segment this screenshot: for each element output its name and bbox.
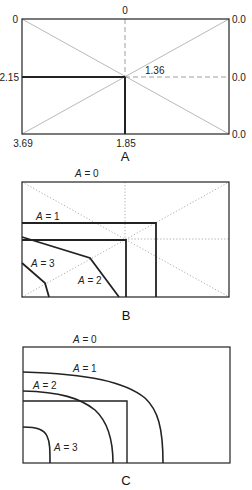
label-a3: A = 3 <box>53 442 78 453</box>
panel-a-caption: A <box>121 149 130 164</box>
figure: 0 0 0.0 2.15 0.0 1.36 3.69 1.85 0.0 A A … <box>0 0 252 490</box>
panel-b: A = 0 A = 1 A = 2 A = 3 B <box>22 168 229 323</box>
label-bottom-right: 0.0 <box>232 129 246 140</box>
label-top-right: 0.0 <box>232 14 246 25</box>
panel-a: 0 0 0.0 2.15 0.0 1.36 3.69 1.85 0.0 A <box>0 5 246 164</box>
label-bottom-center: 1.85 <box>116 138 136 149</box>
label-a0: A = 0 <box>74 168 99 179</box>
label-bottom-left: 3.69 <box>13 138 33 149</box>
label-a1: A = 1 <box>35 211 60 222</box>
label-a3: A = 3 <box>30 258 55 269</box>
label-mid-left: 2.15 <box>0 72 19 83</box>
contour-a3 <box>23 427 50 463</box>
label-center: 1.36 <box>145 65 165 76</box>
label-a2: A = 2 <box>32 380 57 391</box>
contour-a2-box <box>23 401 127 463</box>
panel-b-caption: B <box>122 308 131 323</box>
label-top-left: 0 <box>12 14 18 25</box>
label-top-center: 0 <box>122 5 128 16</box>
label-a0: A = 0 <box>72 334 97 345</box>
label-mid-right: 0.0 <box>232 72 246 83</box>
panel-c: A = 0 A = 1 A = 2 A = 3 C <box>23 334 230 488</box>
panel-c-caption: C <box>121 473 130 488</box>
label-a2: A = 2 <box>77 275 102 286</box>
label-a1: A = 1 <box>72 363 97 374</box>
